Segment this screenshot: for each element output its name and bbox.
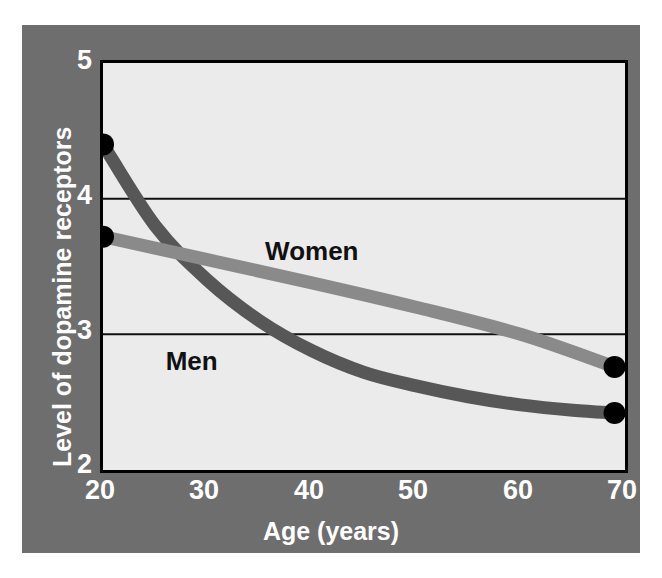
- y-tick-label-5: 5: [58, 45, 92, 76]
- endpoint-marker-men-end: [604, 402, 625, 424]
- y-axis-title: Level of dopamine receptors: [48, 127, 77, 467]
- plot-area: Women Men: [100, 60, 628, 473]
- y-tick-label-3: 3: [58, 315, 92, 346]
- endpoint-marker-women-end: [604, 356, 625, 378]
- x-axis-title: Age (years): [22, 517, 640, 546]
- x-tick-label-20: 20: [72, 475, 128, 506]
- x-tick-label-30: 30: [176, 475, 232, 506]
- x-tick-label-40: 40: [281, 475, 337, 506]
- y-tick-label-4: 4: [58, 180, 92, 211]
- x-tick-label-60: 60: [490, 475, 546, 506]
- series-layer: [103, 133, 625, 424]
- x-tick-label-70: 70: [594, 475, 650, 506]
- x-tick-label-50: 50: [385, 475, 441, 506]
- series-label-women: Women: [265, 236, 358, 266]
- chart-panel: Level of dopamine receptors 5 4 3 2 20 3…: [22, 25, 640, 553]
- gridlines: [103, 199, 625, 335]
- chart-figure: Level of dopamine receptors 5 4 3 2 20 3…: [0, 0, 662, 578]
- chart-canvas: Women Men: [103, 63, 625, 470]
- series-label-men: Men: [166, 346, 218, 376]
